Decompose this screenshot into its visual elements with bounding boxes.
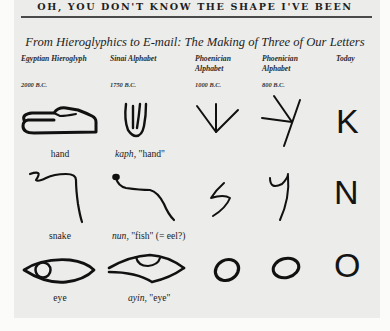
modern-letter-o: O bbox=[334, 248, 360, 282]
eye-hieroglyph-icon bbox=[20, 256, 98, 286]
running-head: OH, YOU DON'T KNOW THE SHAPE I'VE BEEN bbox=[0, 1, 390, 12]
sinai-letter-name: ayin, bbox=[128, 292, 147, 303]
sinai-letter-meaning: "eye" bbox=[149, 292, 170, 303]
column-heading-phoenician-800: Phoenician Alphabet bbox=[262, 54, 312, 74]
figure-title: From Hieroglyphics to E-mail: The Making… bbox=[0, 35, 390, 50]
sinai-letter-meaning: "hand" bbox=[138, 148, 164, 159]
modern-letter-n: N bbox=[334, 175, 359, 209]
hieroglyph-caption-eye: eye bbox=[40, 292, 80, 303]
sinai-caption-ayin: ayin, "eye" bbox=[128, 292, 198, 303]
kaph-phoenician-late-icon bbox=[260, 92, 306, 150]
hieroglyph-caption-hand: hand bbox=[40, 148, 80, 159]
column-date-sinai: 1750 B.C. bbox=[110, 81, 136, 88]
ayin-sinai-icon bbox=[106, 252, 188, 288]
column-date-phoenician-1000: 1000 B.C. bbox=[195, 81, 221, 88]
ayin-phoenician-early-icon bbox=[210, 254, 244, 286]
nun-phoenician-late-icon bbox=[268, 172, 304, 224]
modern-letter-k: K bbox=[336, 104, 359, 138]
nun-sinai-icon bbox=[110, 172, 180, 224]
kaph-phoenician-early-icon bbox=[194, 100, 244, 136]
column-heading-sinai: Sinai Alphabet bbox=[110, 54, 156, 64]
kaph-sinai-icon bbox=[122, 100, 152, 140]
sinai-letter-name: kaph, bbox=[115, 148, 136, 159]
column-heading-today: Today bbox=[336, 54, 355, 64]
hand-hieroglyph-icon bbox=[20, 104, 100, 138]
column-date-egyptian: 2000 B.C. bbox=[21, 81, 47, 88]
sinai-caption-kaph: kaph, "hand" bbox=[115, 148, 185, 159]
snake-hieroglyph-icon bbox=[26, 170, 86, 226]
sinai-letter-meaning: "fish" (= eel?) bbox=[131, 230, 185, 241]
header-rule bbox=[21, 16, 372, 18]
sinai-caption-nun: nun, "fish" (= eel?) bbox=[112, 230, 202, 241]
column-date-phoenician-800: 800 B.C. bbox=[262, 81, 285, 88]
hieroglyph-caption-snake: snake bbox=[40, 230, 80, 241]
column-heading-phoenician-1000: Phoenician Alphabet bbox=[195, 54, 245, 74]
sinai-letter-name: nun, bbox=[112, 230, 129, 241]
nun-phoenician-early-icon bbox=[208, 180, 244, 220]
column-heading-egyptian: Egyptian Hieroglyph bbox=[21, 54, 87, 64]
ayin-phoenician-late-icon bbox=[268, 254, 304, 282]
